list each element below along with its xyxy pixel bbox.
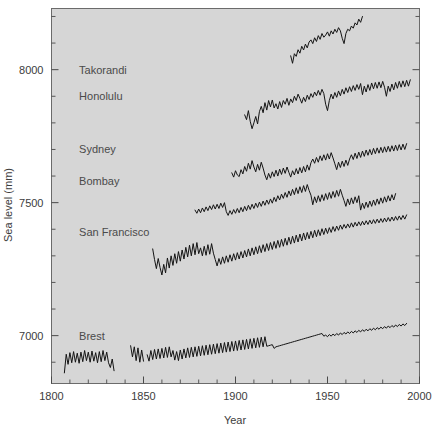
x-tick-label: 1800 [39, 390, 63, 402]
series-label-bombay: Bombay [79, 175, 120, 187]
series-label-honolulu: Honolulu [79, 90, 122, 102]
sea-level-chart-svg: 18001850190019502000 700075008000 Takora… [0, 0, 436, 434]
chart-figure: 18001850190019502000 700075008000 Takora… [0, 0, 436, 434]
y-axis-title: Sea level (mm) [2, 168, 14, 242]
x-tick-label: 1900 [223, 390, 247, 402]
x-tick-label: 2000 [407, 390, 431, 402]
series-label-sydney: Sydney [79, 143, 116, 155]
y-tick-label: 7000 [19, 330, 43, 342]
series-label-brest: Brest [79, 330, 105, 342]
x-tick-label: 1850 [131, 390, 155, 402]
x-tick-label: 1950 [315, 390, 339, 402]
series-label-san-francisco: San Francisco [79, 226, 149, 238]
y-tick-label: 8000 [19, 64, 43, 76]
series-label-takorandi: Takorandi [79, 64, 127, 76]
x-axis-title: Year [224, 414, 247, 426]
y-tick-label: 7500 [19, 197, 43, 209]
